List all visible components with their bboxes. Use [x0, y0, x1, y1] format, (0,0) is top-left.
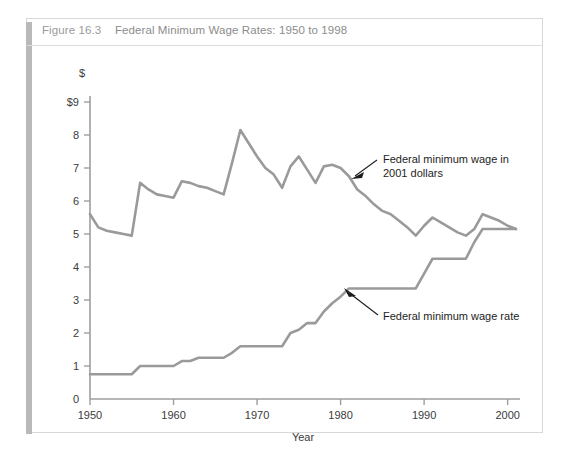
series-line-nominal — [90, 229, 516, 374]
y-tick-label: 0 — [73, 393, 79, 405]
chart-plot: $9876543210$195019601970198019902000Year… — [0, 0, 561, 456]
x-tick-label: 1950 — [78, 409, 102, 421]
y-tick-label: 3 — [73, 294, 79, 306]
annotation-nominal-line1: Federal minimum wage rate — [383, 310, 519, 322]
annotation-real-leader — [355, 160, 377, 176]
y-tick-label: 5 — [73, 228, 79, 240]
x-tick-label: 1970 — [245, 409, 269, 421]
annotation-real-arrowhead — [351, 172, 364, 179]
annotation-real-line1: Federal minimum wage in — [383, 153, 509, 165]
y-tick-label: 1 — [73, 360, 79, 372]
x-axis-title: Year — [292, 431, 315, 443]
x-tick-label: 2000 — [495, 409, 519, 421]
y-tick-label: $9 — [67, 96, 79, 108]
y-tick-label: 4 — [73, 261, 79, 273]
x-tick-label: 1990 — [412, 409, 436, 421]
series-line-real-dollars — [90, 130, 516, 236]
figure-container: Figure 16.3 Federal Minimum Wage Rates: … — [0, 0, 561, 456]
annotation-real-line2: 2001 dollars — [383, 167, 443, 179]
y-axis-unit: $ — [79, 67, 85, 79]
x-tick-label: 1980 — [328, 409, 352, 421]
y-tick-label: 6 — [73, 195, 79, 207]
y-tick-label: 8 — [73, 129, 79, 141]
x-tick-label: 1960 — [161, 409, 185, 421]
y-tick-label: 7 — [73, 162, 79, 174]
y-tick-label: 2 — [73, 327, 79, 339]
